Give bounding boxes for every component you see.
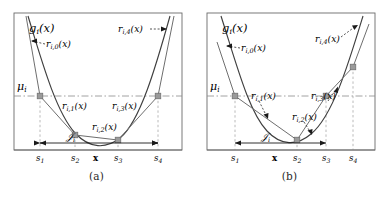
segment-label-r1: ri,1(x) — [62, 100, 87, 113]
knot-marker-s1 — [232, 93, 238, 99]
tick-label-s3: s3 — [322, 153, 330, 164]
knot-marker-s4 — [350, 64, 356, 70]
figure-root: gi(x) μi ri,0(x) ri,1(x) ri,2(x) ri,3(x) — [0, 0, 386, 198]
tick-label-x: x — [93, 153, 99, 163]
knot-marker-s3 — [115, 137, 121, 143]
tick-label-s2: s2 — [71, 153, 79, 164]
segment-label-r1: ri,1(x) — [251, 90, 276, 103]
tick-label-s4: s4 — [154, 153, 162, 164]
tick-label-x: x — [272, 153, 278, 163]
panel-b-plot: gi(x) μi ri,0(x) ri,1(x) ri,2(x) ri,3(x) — [193, 0, 386, 198]
segment-label-r2: ri,2(x) — [92, 121, 117, 134]
segment-label-r0: ri,0(x) — [46, 38, 71, 51]
segment-label-r3: ri,3(x) — [311, 90, 336, 103]
segment-r1 — [40, 96, 75, 135]
knot-marker-s1 — [37, 93, 43, 99]
tick-label-s2: s2 — [293, 153, 301, 164]
tick-label-s3: s3 — [114, 153, 122, 164]
interval-arrowhead-left — [40, 141, 46, 146]
interval-arrowhead-right — [320, 141, 326, 146]
panel-a-plot: gi(x) μi ri,0(x) ri,1(x) ri,2(x) ri,3(x) — [0, 0, 193, 198]
segment-label-r3: ri,3(x) — [112, 100, 137, 113]
mu-label: μi — [210, 80, 220, 94]
tick-label-s1: s1 — [231, 153, 239, 164]
curve-label: gi(x) — [29, 21, 54, 36]
panel-a-caption: (a) — [0, 170, 193, 182]
panel-b: gi(x) μi ri,0(x) ri,1(x) ri,2(x) ri,3(x) — [193, 0, 386, 198]
interval-arrowhead-right — [152, 141, 158, 146]
tick-label-s1: s1 — [36, 153, 44, 164]
knot-marker-s4 — [155, 93, 161, 99]
segment-r4 — [353, 24, 369, 67]
segment-label-r4: ri,4(x) — [315, 33, 340, 46]
leader-r0-arrowhead — [31, 39, 37, 44]
leader-r0-arrowhead — [226, 44, 232, 49]
segment-r4 — [158, 16, 174, 96]
mu-label: μi — [17, 80, 27, 94]
panel-b-caption: (b) — [193, 170, 386, 182]
segment-label-r0: ri,0(x) — [241, 42, 266, 55]
curve-label: gi(x) — [222, 21, 247, 36]
tick-label-s4: s4 — [349, 153, 357, 164]
leader-r4-arrowhead — [352, 25, 358, 30]
knot-marker-s2 — [294, 137, 300, 143]
interval-arrowhead-left — [235, 141, 241, 146]
segment-label-r4: ri,4(x) — [118, 23, 143, 36]
panel-a: gi(x) μi ri,0(x) ri,1(x) ri,2(x) ri,3(x) — [0, 0, 193, 198]
segment-label-r2: ri,2(x) — [292, 111, 317, 124]
